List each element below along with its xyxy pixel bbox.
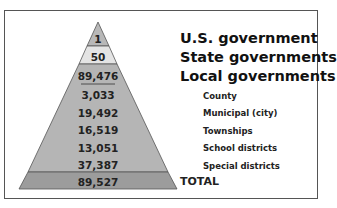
label-county: County — [203, 91, 237, 101]
label-school: School districts — [203, 143, 277, 153]
label-us: U.S. government — [180, 30, 318, 46]
value-county: 3,033 — [58, 89, 138, 101]
value-local: 89,476 — [58, 70, 138, 82]
label-townships: Townships — [203, 126, 253, 136]
value-school: 13,051 — [58, 142, 138, 154]
label-local: Local governments — [180, 68, 336, 84]
label-state: State governments — [180, 49, 337, 65]
value-state: 50 — [58, 51, 138, 63]
value-us: 1 — [58, 33, 138, 45]
label-special: Special districts — [203, 161, 280, 171]
label-municipal: Municipal (city) — [203, 108, 277, 118]
label-total: TOTAL — [180, 175, 219, 188]
value-municipal: 19,492 — [58, 107, 138, 119]
value-townships: 16,519 — [58, 124, 138, 136]
value-total: 89,527 — [58, 176, 138, 188]
value-special: 37,387 — [58, 159, 138, 171]
